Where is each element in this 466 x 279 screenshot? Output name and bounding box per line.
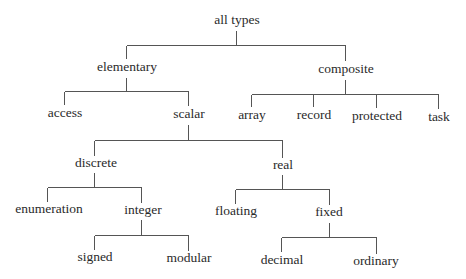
node-access: access (48, 105, 82, 120)
node-composite: composite (318, 61, 374, 76)
node-integer: integer (124, 202, 162, 217)
node-ordinary: ordinary (353, 253, 399, 268)
type-hierarchy-tree: all types elementary composite access sc… (0, 0, 466, 279)
node-array: array (238, 107, 266, 122)
node-decimal: decimal (261, 252, 304, 267)
node-record: record (297, 107, 332, 122)
node-enumeration: enumeration (15, 201, 83, 216)
node-scalar: scalar (173, 106, 205, 121)
node-all-types: all types (214, 12, 259, 27)
node-discrete: discrete (75, 155, 117, 170)
node-protected: protected (352, 108, 402, 123)
node-signed: signed (77, 249, 112, 264)
node-task: task (428, 109, 450, 124)
node-real: real (273, 157, 293, 172)
node-modular: modular (167, 250, 212, 265)
node-floating: floating (215, 203, 257, 218)
node-fixed: fixed (315, 204, 343, 219)
node-elementary: elementary (97, 59, 157, 74)
